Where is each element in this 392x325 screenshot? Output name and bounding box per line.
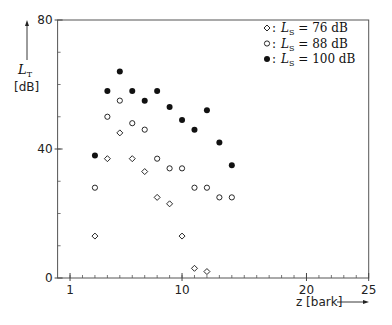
legend-entry: :LS = 76 dB	[264, 21, 348, 37]
data-point	[167, 201, 173, 207]
data-point	[92, 233, 98, 239]
data-point	[117, 69, 123, 75]
data-point	[117, 130, 123, 136]
legend-colon: :	[272, 37, 276, 51]
chart: 110202504080 :LS = 76 dB:LS = 88 dB:LS =…	[0, 0, 392, 325]
x-axis-label: z [bark]	[296, 295, 342, 309]
data-point	[167, 104, 173, 110]
data-point	[92, 185, 97, 190]
x-axis-arrowhead	[363, 300, 369, 304]
data-point	[154, 194, 160, 200]
series-diamond-open	[92, 130, 210, 275]
y-tick-label: 40	[37, 142, 52, 156]
data-point	[192, 185, 197, 190]
data-point	[167, 166, 172, 171]
legend-colon: :	[272, 52, 276, 66]
data-point	[129, 156, 135, 162]
data-point	[217, 195, 222, 200]
data-point	[179, 117, 185, 123]
data-point	[191, 127, 197, 133]
data-point	[191, 265, 197, 271]
data-point	[117, 98, 122, 103]
data-point	[204, 185, 209, 190]
y-axis-label: LT	[17, 62, 33, 79]
data-point	[104, 156, 110, 162]
data-point	[104, 88, 110, 94]
legend-colon: :	[272, 21, 276, 35]
y-axis-arrowhead	[25, 20, 29, 26]
data-point	[129, 88, 135, 94]
series-circle-open	[92, 98, 234, 200]
y-tick-label: 0	[45, 271, 53, 285]
data-point	[229, 195, 234, 200]
data-point	[204, 269, 210, 275]
legend-label: LS = 88 dB	[280, 37, 348, 53]
data-point	[179, 166, 184, 171]
data-point	[142, 127, 147, 132]
x-tick-label: 1	[66, 283, 74, 297]
x-tick-label: 10	[174, 283, 189, 297]
data-point	[130, 121, 135, 126]
legend-marker	[264, 25, 270, 31]
data-point	[154, 88, 160, 94]
y-tick-label: 80	[37, 13, 52, 27]
data-point	[216, 140, 222, 146]
data-point	[92, 152, 98, 158]
legend-entry: :LS = 100 dB	[264, 52, 356, 68]
y-axis-unit: [dB]	[14, 80, 39, 94]
data-point	[204, 107, 210, 113]
data-point	[142, 169, 148, 175]
data-point	[142, 98, 148, 104]
legend-label: LS = 76 dB	[280, 21, 348, 37]
legend-marker	[264, 56, 270, 62]
series-circle-filled	[92, 69, 235, 169]
legend-label: LS = 100 dB	[280, 52, 356, 68]
legend-marker	[264, 41, 269, 46]
data-point	[155, 156, 160, 161]
data-point	[105, 114, 110, 119]
data-point	[229, 162, 235, 168]
x-tick-label: 25	[361, 283, 376, 297]
legend-entry: :LS = 88 dB	[264, 37, 348, 53]
data-point	[179, 233, 185, 239]
